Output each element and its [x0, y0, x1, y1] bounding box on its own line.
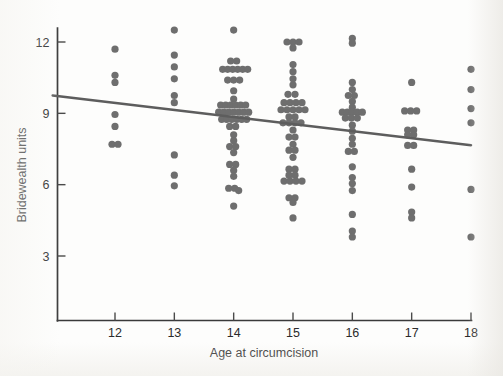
data-point — [467, 86, 474, 93]
regression-trend-line — [53, 96, 471, 146]
data-point — [235, 187, 242, 194]
data-point — [301, 106, 308, 113]
data-point — [295, 38, 302, 45]
y-tick-label: 9 — [43, 107, 50, 121]
data-point — [413, 107, 420, 114]
x-tick-label: 13 — [167, 326, 181, 340]
data-point — [233, 57, 240, 64]
data-point — [244, 66, 251, 73]
data-point — [242, 101, 249, 108]
data-point — [230, 173, 237, 180]
data-point — [232, 123, 239, 130]
y-tick-label: 3 — [43, 250, 50, 264]
data-point — [349, 180, 356, 187]
data-point — [349, 233, 356, 240]
data-point — [289, 44, 296, 51]
data-point — [408, 166, 415, 173]
x-tick-label: 12 — [108, 326, 122, 340]
data-point — [111, 72, 118, 79]
data-point — [171, 27, 178, 34]
x-tick-label: 16 — [345, 326, 359, 340]
x-tick-label: 17 — [405, 326, 419, 340]
data-point — [111, 46, 118, 53]
data-point — [171, 63, 178, 70]
data-point — [408, 79, 415, 86]
y-axis-title: Bridewealth units — [15, 127, 29, 222]
data-point — [284, 91, 291, 98]
data-point — [289, 199, 296, 206]
data-point — [349, 79, 356, 86]
data-point — [467, 66, 474, 73]
data-point — [171, 75, 178, 82]
data-point — [298, 99, 305, 106]
data-point — [230, 87, 237, 94]
data-point — [298, 178, 305, 185]
data-point — [351, 148, 358, 155]
data-point — [171, 51, 178, 58]
data-point — [111, 123, 118, 130]
data-point — [289, 154, 296, 161]
data-point — [289, 81, 296, 88]
data-point — [114, 141, 121, 148]
data-point — [171, 99, 178, 106]
data-point — [171, 172, 178, 179]
data-point — [349, 163, 356, 170]
data-point — [349, 141, 356, 148]
x-tick-label: 18 — [464, 326, 478, 340]
data-point — [289, 126, 296, 133]
data-point — [171, 182, 178, 189]
figure-root: 36912 12131415161718 Age at circumcision… — [0, 0, 503, 376]
data-point — [410, 142, 417, 149]
data-point — [467, 105, 474, 112]
data-point — [230, 27, 237, 34]
data-point — [354, 114, 361, 121]
data-point — [291, 147, 298, 154]
data-point — [171, 151, 178, 158]
data-point — [289, 68, 296, 75]
data-point — [467, 233, 474, 240]
data-point — [230, 202, 237, 209]
data-point — [245, 109, 252, 116]
data-point — [408, 214, 415, 221]
y-axis-ticks: 36912 — [36, 36, 66, 264]
data-point — [467, 119, 474, 126]
data-point — [467, 186, 474, 193]
data-point — [291, 134, 298, 141]
data-point — [349, 40, 356, 47]
data-points-layer — [108, 27, 474, 241]
data-point — [289, 61, 296, 68]
data-point — [111, 111, 118, 118]
scatter-plot-canvas: 36912 12131415161718 Age at circumcision… — [0, 0, 503, 376]
x-axis-title: Age at circumcision — [210, 346, 318, 360]
data-point — [291, 91, 298, 98]
x-tick-label: 14 — [227, 326, 241, 340]
data-point — [236, 76, 243, 83]
data-point — [359, 109, 366, 116]
data-point — [111, 79, 118, 86]
data-point — [349, 187, 356, 194]
x-tick-label: 15 — [286, 326, 300, 340]
data-point — [289, 214, 296, 221]
y-tick-label: 12 — [36, 36, 50, 50]
y-tick-label: 6 — [43, 178, 50, 192]
data-point — [408, 183, 415, 190]
data-point — [349, 211, 356, 218]
data-point — [230, 149, 237, 156]
x-axis-ticks: 12131415161718 — [108, 313, 478, 340]
data-point — [171, 92, 178, 99]
